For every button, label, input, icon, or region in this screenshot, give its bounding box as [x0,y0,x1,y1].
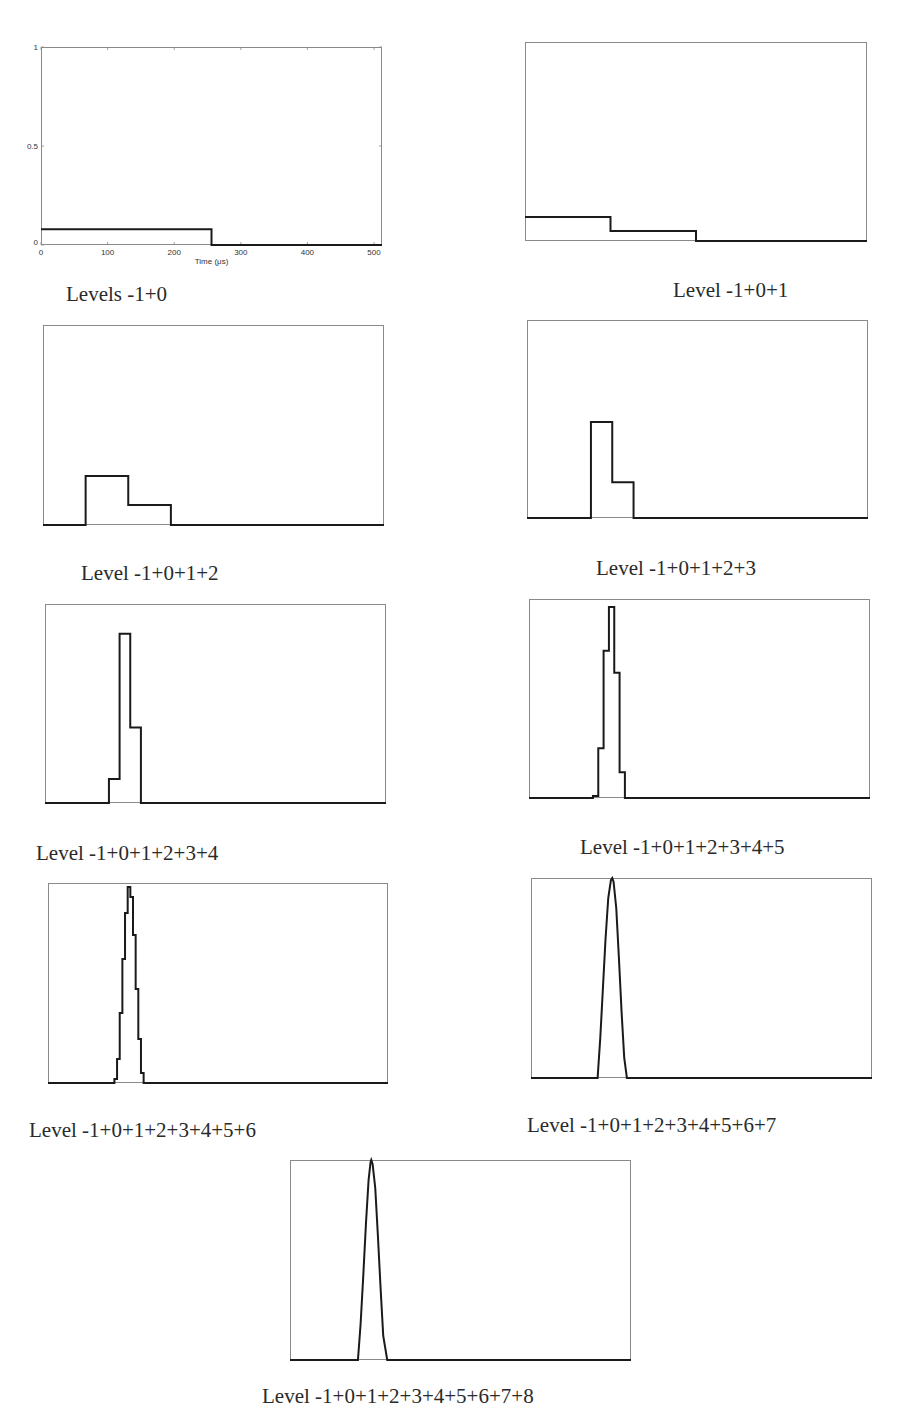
signal-line [527,422,868,518]
axes-frame [42,48,382,245]
plot-panel-9 [290,1160,631,1360]
x-tick-label: 0 [39,248,44,257]
y-tick-label: 0 [34,238,39,247]
plot-caption-8: Level -1+0+1+2+3+4+5+6+7 [527,1113,776,1138]
x-tick-label: 200 [168,248,182,257]
plot-caption-1: Levels -1+0 [66,282,167,307]
x-axis-label: Time (μs) [195,257,229,266]
plot-svg [531,878,872,1078]
plot-caption-7: Level -1+0+1+2+3+4+5+6 [29,1118,256,1143]
plot-panel-7 [48,883,388,1083]
plot-panel-3 [43,325,384,525]
signal-line [41,229,382,245]
axes-frame [532,879,872,1078]
plot-svg [45,604,386,803]
axes-frame [291,1161,631,1360]
plot-panel-6 [529,599,870,798]
axes-frame [526,43,867,241]
x-tick-label: 400 [301,248,315,257]
axes-frame [530,600,870,798]
plot-svg [527,320,868,518]
plot-panel-2 [525,42,867,241]
x-tick-label: 100 [101,248,115,257]
axes-frame [44,326,384,525]
plot-caption-9: Level -1+0+1+2+3+4+5+6+7+8 [262,1384,534,1405]
plot-panel-5 [45,604,386,803]
signal-line [48,887,388,1083]
plot-caption-4: Level -1+0+1+2+3 [596,556,756,581]
signal-line [43,476,384,525]
y-tick-label: 1 [34,43,39,52]
axes-frame [46,605,386,803]
axes-frame [49,884,388,1083]
axes-frame [528,321,868,518]
plot-caption-2: Level -1+0+1 [673,278,788,303]
plot-panel-1: 010020030040050000.51Time (μs) [41,47,382,245]
plot-caption-3: Level -1+0+1+2 [81,561,219,586]
plot-svg [525,42,867,241]
plot-svg [43,325,384,525]
plot-caption-5: Level -1+0+1+2+3+4 [36,841,218,866]
x-tick-label: 500 [367,248,381,257]
plot-svg: 010020030040050000.51Time (μs) [41,47,382,245]
plot-panel-8 [531,878,872,1078]
signal-line [529,607,870,798]
x-tick-label: 300 [234,248,248,257]
plot-caption-6: Level -1+0+1+2+3+4+5 [580,835,785,860]
signal-line [525,217,867,241]
plot-svg [48,883,388,1083]
y-tick-label: 0.5 [27,142,39,151]
signal-line [290,1160,631,1360]
plot-panel-4 [527,320,868,518]
plot-svg [529,599,870,798]
plot-svg [290,1160,631,1360]
signal-line [45,634,386,803]
signal-line [531,878,872,1078]
